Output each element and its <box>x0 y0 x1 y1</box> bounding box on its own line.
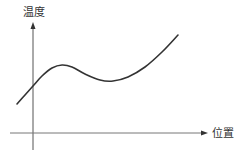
y-axis-arrow-icon <box>31 22 36 29</box>
temperature-curve <box>17 35 178 104</box>
y-axis-label: 温度 <box>23 7 45 19</box>
temperature-position-diagram <box>0 0 247 157</box>
x-axis-arrow-icon <box>201 131 208 136</box>
x-axis-label: 位置 <box>212 128 234 140</box>
